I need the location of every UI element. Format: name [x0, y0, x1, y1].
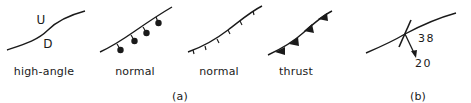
dip-value: 38 — [418, 33, 435, 44]
downthrown-label: D — [43, 38, 52, 50]
upthrown-label: U — [37, 14, 46, 26]
fault-label-high-angle: high-angle — [14, 66, 74, 77]
ball-tick-icon — [117, 17, 161, 53]
panel-a-caption: (a) — [172, 91, 188, 102]
fault-label-normal-ball: normal — [115, 66, 155, 77]
fault-label-normal-hachure: normal — [199, 66, 239, 77]
normal-fault-trace — [188, 6, 262, 52]
panel-b-caption: (b) — [410, 91, 426, 102]
normal-fault-ball-symbol — [100, 7, 172, 53]
strike-dip-plunge-symbol — [366, 13, 456, 58]
plunge-value: 20 — [415, 58, 432, 69]
normal-fault-hachure-symbol — [188, 6, 262, 54]
fault-symbols-diagram — [0, 0, 471, 103]
fault-label-thrust: thrust — [279, 66, 313, 77]
normal-fault-trace — [100, 7, 172, 52]
thrust-fault-symbol — [268, 11, 332, 55]
